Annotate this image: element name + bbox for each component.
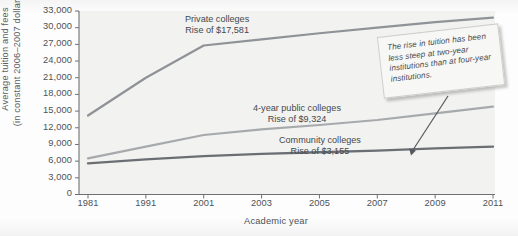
y-axis-tick-label: 18,000 xyxy=(43,88,72,98)
series-annotation-community-colleges-name: Community colleges xyxy=(279,135,361,146)
x-axis-tick-label: 1991 xyxy=(126,198,166,208)
y-axis-tick-label: 30,000 xyxy=(43,21,72,31)
chart-figure: Average tuition and fees (in constant 20… xyxy=(0,0,518,236)
y-axis-tick-label: 24,000 xyxy=(43,55,72,65)
y-axis-title-line-2: (in constant 2006–2007 dollars) xyxy=(12,0,24,139)
series-annotation-private-colleges-name: Private colleges xyxy=(185,14,249,25)
x-axis-tick-label: 2009 xyxy=(415,198,455,208)
series-annotation-4-year-public-colleges-rise: Rise of $9,324 xyxy=(253,114,341,125)
x-axis-tick-label: 2007 xyxy=(357,198,397,208)
y-axis-title-line-1: Average tuition and fees xyxy=(0,0,12,139)
y-axis-tick-label: 9,000 xyxy=(48,138,72,148)
series-annotation-private-colleges-rise: Rise of $17,581 xyxy=(185,25,249,36)
y-axis-tick-label: 27,000 xyxy=(43,38,72,48)
x-axis-tick-label: 2001 xyxy=(184,198,224,208)
series-annotation-private-colleges: Private colleges Rise of $17,581 xyxy=(185,14,249,37)
y-axis-tick-labels: 03,0006,0009,00012,00015,00018,00021,000… xyxy=(26,0,72,236)
x-axis-tick-label: 2003 xyxy=(242,198,282,208)
y-axis-tick-label: 12,000 xyxy=(43,122,72,132)
series-annotation-4-year-public-colleges-name: 4-year public colleges xyxy=(253,103,341,114)
y-axis-tick-label: 21,000 xyxy=(43,72,72,82)
x-axis-tick-label: 1981 xyxy=(68,198,108,208)
series-annotation-4-year-public-colleges: 4-year public colleges Rise of $9,324 xyxy=(253,103,341,126)
x-axis-title-text: Academic year xyxy=(244,216,308,226)
callout-note-text: The rise in tuition has been less steep … xyxy=(387,31,496,85)
y-axis-tick-label: 0 xyxy=(67,188,72,198)
y-axis-ticks xyxy=(75,11,79,195)
y-axis-tick-label: 33,000 xyxy=(43,5,72,15)
y-axis-tick-label: 3,000 xyxy=(48,172,72,182)
y-axis-tick-label: 6,000 xyxy=(48,155,72,165)
series-annotation-community-colleges-rise: Rise of $3,155 xyxy=(279,146,361,157)
x-axis-title: Academic year xyxy=(0,216,518,226)
x-axis-tick-label: 2011 xyxy=(473,198,513,208)
y-axis-tick-label: 15,000 xyxy=(43,105,72,115)
x-axis-tick-label: 2005 xyxy=(299,198,339,208)
series-annotation-community-colleges: Community colleges Rise of $3,155 xyxy=(279,135,361,158)
